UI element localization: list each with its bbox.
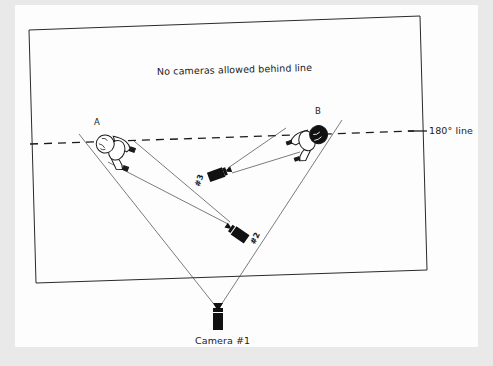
camera-2-icon <box>223 221 249 244</box>
diagram-canvas <box>0 0 493 366</box>
set-boundary <box>29 16 427 283</box>
camera-2-sightlines <box>108 141 230 224</box>
axis-line-180 <box>30 131 414 144</box>
person-a-label: A <box>94 117 100 127</box>
camera-1-icon <box>213 303 223 330</box>
camera-1-label: Camera #1 <box>195 335 250 346</box>
axis-line-label: 180° line <box>429 125 473 136</box>
person-a-figure <box>90 131 137 173</box>
person-b-label: B <box>315 106 321 116</box>
